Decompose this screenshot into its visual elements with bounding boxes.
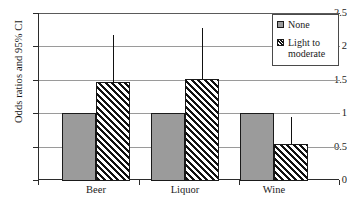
bar-chart: Odds ratios and 95% CI 2.5 2 1.5 1 0.5 0… — [0, 0, 347, 203]
bar-wine-none — [240, 113, 274, 181]
legend: None Light to moderate — [272, 14, 339, 66]
error-bar-beer-light — [113, 35, 114, 82]
error-bar-liquor-light — [202, 28, 203, 79]
legend-label-none: None — [288, 19, 310, 30]
bar-liquor-light — [185, 79, 219, 181]
legend-item-light-to-moderate: Light to moderate — [277, 37, 335, 59]
bar-wine-light — [274, 144, 308, 181]
x-tick-mark-1 — [139, 180, 140, 185]
x-category-label-liquor: Liquor — [145, 184, 225, 195]
bar-liquor-none — [151, 113, 185, 181]
error-bar-wine-light — [291, 117, 292, 144]
y-axis-title: Odds ratios and 95% CI — [13, 0, 24, 147]
legend-swatch-none-icon — [277, 21, 284, 28]
legend-item-none: None — [277, 19, 335, 30]
x-tick-mark-0 — [38, 180, 39, 185]
bar-beer-light — [96, 82, 130, 181]
x-category-label-wine: Wine — [234, 184, 314, 195]
x-tick-mark-3 — [339, 180, 340, 185]
legend-label-light-to-moderate: Light to moderate — [288, 37, 325, 59]
bar-beer-none — [62, 113, 96, 181]
legend-swatch-light-icon — [277, 39, 284, 46]
x-category-label-beer: Beer — [56, 184, 136, 195]
